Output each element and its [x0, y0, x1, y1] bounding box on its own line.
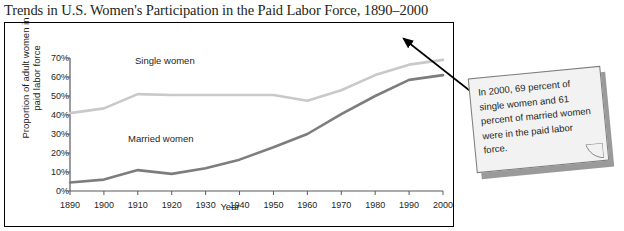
annotation-callout: In 2000, 69 percent of single women and …: [472, 72, 611, 173]
series-line: [70, 75, 443, 182]
chart-panel: Proportion of adult women in paid labor …: [4, 22, 454, 227]
page-title: Trends in U.S. Women's Participation in …: [4, 2, 428, 19]
callout-curl-corner: [586, 143, 604, 160]
x-axis-ticks: [70, 191, 443, 195]
series-label-single-women: Single women: [135, 55, 195, 66]
chart-page: Trends in U.S. Women's Participation in …: [0, 0, 624, 231]
series-line: [70, 60, 443, 113]
axis-lines: [70, 58, 443, 191]
series-label-married-women: Married women: [128, 133, 193, 144]
callout-note: In 2000, 69 percent of single women and …: [468, 66, 609, 173]
data-series-lines: [70, 60, 443, 183]
callout-text: In 2000, 69 percent of single women and …: [477, 75, 599, 158]
plot-area: [5, 23, 455, 228]
